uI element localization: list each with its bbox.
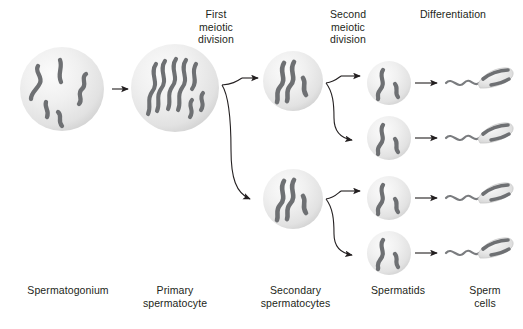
sperm-cell-2 (446, 123, 513, 143)
arrow-secondary1-to-spermatid1-curve (326, 76, 341, 83)
arrow-secondary2-to-spermatid4 (326, 199, 352, 255)
spermatogonium-cell (20, 47, 104, 131)
diagram-graphics (0, 0, 523, 329)
process-label-differentiation: Differentiation (410, 8, 496, 21)
spermatid-cell-3 (367, 176, 411, 220)
arrow-secondary1-to-spermatid2 (326, 83, 352, 140)
secondary-spermatocyte-cell-2 (263, 169, 323, 229)
stage-label-secondary-spermatocytes: Secondary spermatocytes (238, 284, 353, 309)
spermatid-cell-1 (367, 61, 411, 105)
arrow-primary-to-secondary-upper-curve (222, 78, 242, 85)
primary-spermatocyte-cell (131, 44, 219, 132)
arrow-primary-to-secondary-lower (222, 85, 250, 199)
process-label-first-meiotic-division: First meiotic division (186, 8, 246, 46)
stage-label-sperm-cells: Sperm cells (456, 284, 514, 309)
spermatogenesis-diagram: First meiotic division Second meiotic di… (0, 0, 523, 329)
stage-label-primary-spermatocyte: Primary spermatocyte (120, 284, 230, 309)
spermatid-cell-2 (367, 116, 411, 160)
sperm-cell-3 (446, 183, 513, 203)
process-label-second-meiotic-division: Second meiotic division (318, 8, 378, 46)
secondary-spermatocyte-cell-1 (263, 51, 323, 111)
stage-label-spermatids: Spermatids (358, 284, 438, 297)
spermatid-cell-4 (367, 231, 411, 275)
sperm-cell-1 (446, 68, 513, 88)
arrow-secondary2-to-spermatid3-curve (326, 191, 341, 199)
stage-label-spermatogonium: Spermatogonium (8, 284, 128, 297)
sperm-cell-4 (446, 238, 513, 258)
